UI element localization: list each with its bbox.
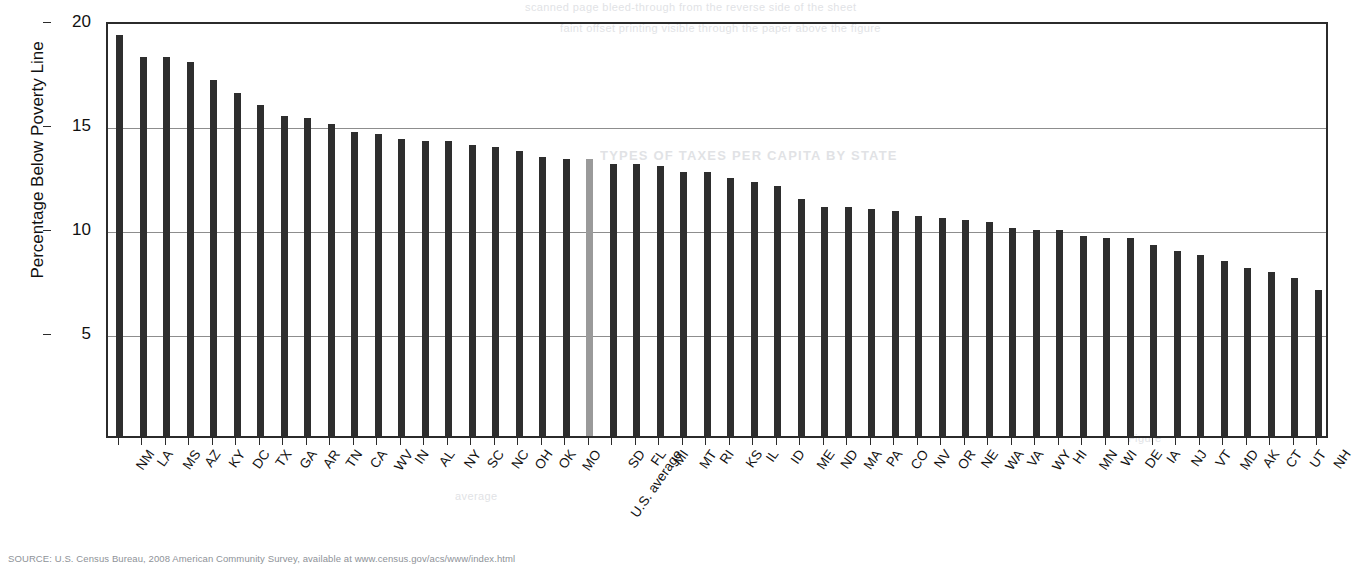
bar-ks: [727, 178, 734, 436]
bar-wv: [375, 134, 382, 436]
bar-me: [798, 199, 805, 436]
x-axis-tick-label-me: ME: [814, 447, 838, 472]
x-axis-tick-mark: [212, 438, 213, 445]
y-axis-tick-label: 20: [51, 12, 91, 32]
bar-tn: [328, 124, 335, 436]
bar-nv: [915, 216, 922, 436]
x-axis-tick-mark: [259, 438, 260, 445]
x-axis-tick-label-ri: RI: [717, 447, 737, 467]
x-axis-tick-mark: [611, 438, 612, 445]
bar-ar: [304, 118, 311, 436]
x-axis-tick-mark: [705, 438, 706, 445]
x-axis-tick-mark: [1293, 438, 1294, 445]
bar-ak: [1244, 268, 1251, 436]
bar-ca: [351, 132, 358, 436]
x-axis-tick-label-wi: WI: [1118, 447, 1140, 469]
x-axis-tick-label-ca: CA: [367, 447, 390, 471]
x-axis-tick-mark: [1152, 438, 1153, 445]
bar-mi: [657, 166, 664, 436]
y-axis-title: Percentage Below Poverty Line: [28, 10, 48, 310]
bar-nd: [821, 207, 828, 436]
x-axis-tick-mark: [964, 438, 965, 445]
x-axis-tick-mark: [541, 438, 542, 445]
x-axis-tick-label-ms: MS: [179, 447, 203, 472]
bar-ct: [1268, 272, 1275, 436]
bar-vt: [1197, 255, 1204, 436]
x-axis-tick-label-wv: WV: [392, 447, 417, 473]
y-axis-tick-mark: [43, 22, 51, 23]
x-axis-tick-mark: [564, 438, 565, 445]
x-axis-tick-label-ne: NE: [978, 447, 1001, 471]
bar-mt: [680, 172, 687, 436]
x-axis-tick-label-id: ID: [788, 447, 808, 467]
x-axis-tick-mark: [282, 438, 283, 445]
x-axis-tick-label-dc: DC: [250, 447, 273, 472]
bar-ga: [281, 116, 288, 436]
x-axis-tick-mark: [635, 438, 636, 445]
source-note: SOURCE: U.S. Census Bureau, 2008 America…: [8, 553, 515, 564]
x-axis-tick-label-nc: NC: [508, 447, 531, 472]
bar-nc: [492, 147, 499, 436]
bar-nj: [1174, 251, 1181, 436]
bar-ut: [1291, 278, 1298, 436]
x-axis-tick-mark: [1058, 438, 1059, 445]
x-axis-tick-label-ny: NY: [461, 447, 484, 471]
bar-az: [187, 62, 194, 436]
x-axis-tick-mark: [118, 438, 119, 445]
x-axis-tick-label-oh: OH: [532, 447, 556, 472]
bar-fl: [633, 164, 640, 436]
bar-dc: [234, 93, 241, 436]
x-axis-tick-label-ky: KY: [225, 447, 248, 470]
x-axis-tick-label-il: IL: [763, 447, 782, 465]
x-axis-tick-label-ia: IA: [1163, 447, 1183, 466]
x-axis-tick-mark: [1081, 438, 1082, 445]
y-axis-tick-label: 5: [51, 324, 91, 344]
x-axis-tick-label-nv: NV: [931, 447, 954, 471]
x-axis-tick-mark: [823, 438, 824, 445]
x-axis-tick-label-wa: WA: [1002, 447, 1026, 473]
bar-md: [1221, 261, 1228, 436]
x-axis-tick-label-la: LA: [154, 447, 176, 469]
x-axis-tick-mark: [752, 438, 753, 445]
x-axis-tick-label-group: NMLAMSAZKYDCTXGAARTNCAWVINALNYSCNCOHOKMO…: [106, 447, 1328, 537]
bar-la: [140, 57, 147, 436]
bar-ma: [845, 207, 852, 436]
x-axis-tick-mark: [682, 438, 683, 445]
x-axis-tick-label-ak: AK: [1259, 447, 1282, 470]
x-axis-tick-mark: [893, 438, 894, 445]
x-axis-tick-label-nh: NH: [1331, 447, 1354, 472]
x-axis-tick-label-al: AL: [436, 447, 458, 469]
bar-de: [1127, 238, 1134, 436]
x-axis-tick-label-md: MD: [1237, 447, 1261, 473]
x-axis-tick-mark: [1105, 438, 1106, 445]
bar-wi: [1103, 238, 1110, 436]
bar-ia: [1150, 245, 1157, 436]
bar-mo: [563, 159, 570, 436]
bar-ok: [539, 157, 546, 436]
x-axis-tick-mark: [400, 438, 401, 445]
x-axis-tick-mark: [188, 438, 189, 445]
x-axis-tick-label-ok: OK: [555, 447, 578, 472]
x-axis-tick-mark: [470, 438, 471, 445]
bar-wa: [986, 222, 993, 436]
x-axis-tick-label-ut: UT: [1306, 447, 1329, 470]
bar-tx: [257, 105, 264, 436]
x-axis-tick-mark: [165, 438, 166, 445]
x-axis-tick-label-ma: MA: [861, 447, 885, 472]
x-axis-tick-mark: [940, 438, 941, 445]
x-axis-tick-label-va: VA: [1024, 447, 1046, 470]
x-axis-tick-mark: [329, 438, 330, 445]
x-axis-tick-mark: [494, 438, 495, 445]
x-axis-tick-label-wy: WY: [1050, 447, 1075, 473]
x-axis-tick-mark: [846, 438, 847, 445]
bar-va: [1009, 228, 1016, 436]
x-axis-tick-mark: [423, 438, 424, 445]
bar-in: [398, 139, 405, 436]
x-axis-tick-mark: [306, 438, 307, 445]
bar-nm: [116, 35, 123, 436]
x-axis-tick-label-ga: GA: [297, 447, 320, 472]
x-axis-tick-label-ks: KS: [742, 447, 765, 470]
y-axis-tick-mark: [43, 334, 51, 335]
x-axis-tick-mark: [1316, 438, 1317, 445]
